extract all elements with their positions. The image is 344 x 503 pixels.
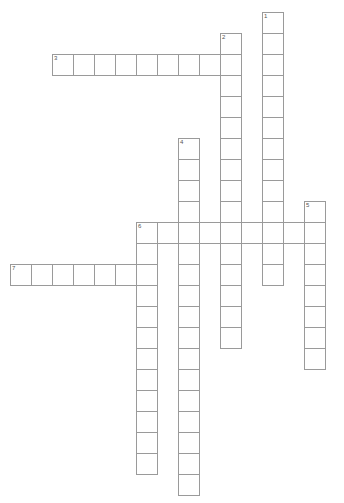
crossword-cell[interactable]	[178, 432, 200, 454]
crossword-cell[interactable]	[178, 390, 200, 412]
crossword-cell[interactable]	[220, 201, 242, 223]
crossword-cell[interactable]	[262, 138, 284, 160]
crossword-cell[interactable]	[262, 33, 284, 55]
crossword-cell[interactable]	[178, 348, 200, 370]
crossword-cell[interactable]	[241, 222, 263, 244]
crossword-cell[interactable]	[220, 33, 242, 55]
crossword-cell[interactable]	[304, 264, 326, 286]
crossword-cell[interactable]	[136, 390, 158, 412]
crossword-grid: 1234567	[0, 0, 344, 503]
crossword-cell[interactable]	[220, 159, 242, 181]
crossword-cell[interactable]	[220, 138, 242, 160]
crossword-cell[interactable]	[220, 117, 242, 139]
crossword-cell[interactable]	[178, 264, 200, 286]
crossword-cell[interactable]	[178, 327, 200, 349]
crossword-cell[interactable]	[220, 306, 242, 328]
crossword-cell[interactable]	[304, 327, 326, 349]
crossword-cell[interactable]	[94, 264, 116, 286]
crossword-cell[interactable]	[262, 117, 284, 139]
crossword-cell[interactable]	[262, 201, 284, 223]
crossword-cell[interactable]	[283, 222, 305, 244]
crossword-cell[interactable]	[220, 285, 242, 307]
crossword-cell[interactable]	[178, 369, 200, 391]
crossword-cell[interactable]	[262, 12, 284, 34]
crossword-cell[interactable]	[178, 411, 200, 433]
crossword-cell[interactable]	[304, 285, 326, 307]
crossword-cell[interactable]	[178, 243, 200, 265]
crossword-cell[interactable]	[220, 222, 242, 244]
crossword-cell[interactable]	[115, 264, 137, 286]
crossword-cell[interactable]	[178, 138, 200, 160]
crossword-cell[interactable]	[136, 327, 158, 349]
crossword-cell[interactable]	[262, 75, 284, 97]
crossword-cell[interactable]	[262, 54, 284, 76]
crossword-cell[interactable]	[136, 243, 158, 265]
crossword-cell[interactable]	[136, 54, 158, 76]
crossword-cell[interactable]	[304, 306, 326, 328]
crossword-cell[interactable]	[262, 96, 284, 118]
crossword-cell[interactable]	[73, 264, 95, 286]
crossword-cell[interactable]	[157, 222, 179, 244]
crossword-cell[interactable]	[178, 201, 200, 223]
crossword-cell[interactable]	[304, 243, 326, 265]
crossword-cell[interactable]	[178, 306, 200, 328]
crossword-cell[interactable]	[199, 54, 221, 76]
crossword-cell[interactable]	[136, 222, 158, 244]
crossword-cell[interactable]	[136, 348, 158, 370]
crossword-cell[interactable]	[178, 159, 200, 181]
crossword-cell[interactable]	[52, 264, 74, 286]
crossword-cell[interactable]	[220, 327, 242, 349]
crossword-cell[interactable]	[262, 159, 284, 181]
crossword-cell[interactable]	[136, 306, 158, 328]
crossword-cell[interactable]	[178, 474, 200, 496]
crossword-cell[interactable]	[220, 264, 242, 286]
crossword-cell[interactable]	[262, 180, 284, 202]
crossword-cell[interactable]	[94, 54, 116, 76]
crossword-cell[interactable]	[220, 243, 242, 265]
crossword-cell[interactable]	[136, 411, 158, 433]
crossword-cell[interactable]	[136, 453, 158, 475]
crossword-cell[interactable]	[220, 54, 242, 76]
crossword-cell[interactable]	[136, 432, 158, 454]
crossword-cell[interactable]	[73, 54, 95, 76]
crossword-cell[interactable]	[220, 96, 242, 118]
crossword-cell[interactable]	[199, 222, 221, 244]
crossword-cell[interactable]	[115, 54, 137, 76]
crossword-cell[interactable]	[262, 222, 284, 244]
crossword-cell[interactable]	[136, 264, 158, 286]
crossword-cell[interactable]	[178, 54, 200, 76]
crossword-cell[interactable]	[52, 54, 74, 76]
crossword-cell[interactable]	[10, 264, 32, 286]
crossword-cell[interactable]	[262, 264, 284, 286]
crossword-cell[interactable]	[31, 264, 53, 286]
crossword-cell[interactable]	[157, 54, 179, 76]
crossword-cell[interactable]	[136, 369, 158, 391]
crossword-cell[interactable]	[304, 201, 326, 223]
crossword-cell[interactable]	[262, 243, 284, 265]
crossword-cell[interactable]	[178, 180, 200, 202]
crossword-cell[interactable]	[136, 285, 158, 307]
crossword-cell[interactable]	[220, 75, 242, 97]
crossword-cell[interactable]	[304, 348, 326, 370]
crossword-cell[interactable]	[178, 222, 200, 244]
crossword-cell[interactable]	[178, 453, 200, 475]
crossword-cell[interactable]	[304, 222, 326, 244]
crossword-cell[interactable]	[178, 285, 200, 307]
crossword-cell[interactable]	[220, 180, 242, 202]
